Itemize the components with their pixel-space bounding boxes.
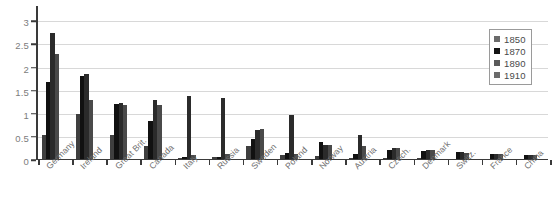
x-axis-tick-mark	[311, 160, 313, 165]
y-axis-tick-label: 3	[24, 17, 36, 28]
legend-label: 1910	[504, 70, 526, 81]
legend: 1850187018901910	[489, 29, 532, 85]
y-axis-tick-mark	[31, 44, 36, 46]
legend-item[interactable]: 1850	[494, 33, 526, 45]
axis-layer: 00.511.522.53	[36, 12, 548, 160]
x-axis-tick-mark	[414, 160, 416, 165]
y-axis-tick-mark	[31, 159, 36, 161]
legend-item[interactable]: 1870	[494, 45, 526, 57]
x-axis-tick-mark	[448, 160, 450, 165]
y-axis-tick-mark	[31, 67, 36, 69]
x-axis-tick-mark	[38, 160, 40, 165]
x-axis-tick-mark	[516, 160, 518, 165]
y-axis-tick-mark	[31, 90, 36, 92]
legend-label: 1870	[504, 46, 526, 57]
x-axis-tick-mark	[550, 160, 552, 165]
y-axis-tick-mark	[31, 21, 36, 23]
y-axis-tick-mark	[31, 136, 36, 138]
y-axis-tick-label: 2	[24, 64, 36, 75]
x-axis-tick-mark	[106, 160, 108, 165]
y-axis-tick-label: 1.5	[15, 87, 36, 98]
legend-label: 1890	[504, 58, 526, 69]
y-axis-tick-label: 2.5	[15, 40, 36, 51]
y-axis-tick-label: 0.5	[15, 133, 36, 144]
legend-swatch-icon	[494, 48, 500, 54]
legend-item[interactable]: 1890	[494, 57, 526, 69]
y-axis-tick-label: 1	[24, 110, 36, 121]
legend-item[interactable]: 1910	[494, 69, 526, 81]
y-axis-tick-label: 0	[24, 156, 36, 167]
x-axis-tick-mark	[482, 160, 484, 165]
x-axis-tick-mark	[209, 160, 211, 165]
x-axis-tick-mark	[277, 160, 279, 165]
legend-swatch-icon	[494, 60, 500, 66]
y-axis-line	[36, 6, 38, 160]
y-axis-tick-mark	[31, 113, 36, 115]
x-axis-tick-mark	[345, 160, 347, 165]
plot-area: 00.511.522.53	[36, 12, 548, 160]
bar-chart: 00.511.522.53 GermanyIrelandGreat Brit.C…	[0, 0, 556, 220]
x-axis-tick-mark	[140, 160, 142, 165]
legend-swatch-icon	[494, 36, 500, 42]
x-axis-tick-mark	[243, 160, 245, 165]
legend-label: 1850	[504, 34, 526, 45]
x-axis-tick-mark	[379, 160, 381, 165]
x-axis-tick-mark	[72, 160, 74, 165]
legend-swatch-icon	[494, 72, 500, 78]
x-axis-tick-mark	[175, 160, 177, 165]
